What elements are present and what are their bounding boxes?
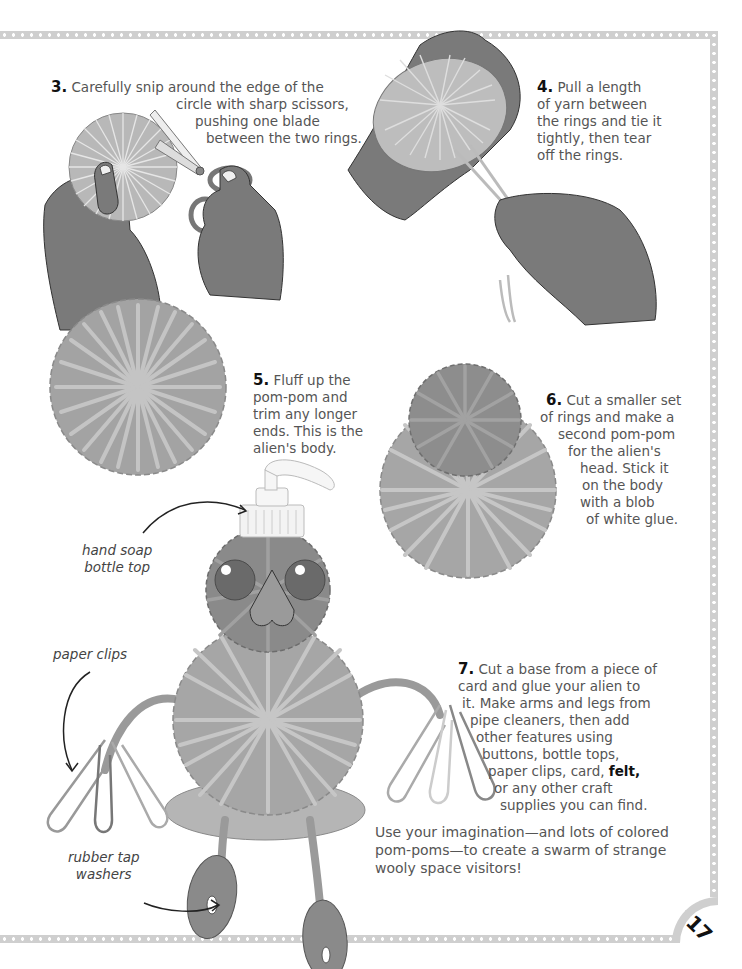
step-number: 6. [546, 391, 562, 409]
step-3-line-4: between the two rings. [51, 130, 362, 147]
step-6-line-7: with a blob [546, 494, 681, 511]
step-7-line-9: supplies you can find. [458, 797, 657, 814]
step-6-line-8: of white glue. [546, 511, 681, 528]
bold-word-felt: felt, [609, 763, 640, 779]
step-4-text: 4. Pull a length of yarn between the rin… [537, 79, 662, 164]
step-4-line-2: of yarn between [537, 96, 662, 113]
closing-line-2: pom-poms—to create a swarm of strange [375, 841, 669, 859]
step-6-line-5: head. Stick it [546, 460, 681, 477]
step-number: 5. [253, 371, 269, 389]
step-3-line-3: pushing one blade [51, 113, 362, 130]
step-5-text: 5. Fluff up the pom-pom and trim any lon… [253, 372, 363, 457]
step-text: Cut a smaller set [566, 392, 681, 408]
label-rubber-tap-washers: rubber tap washers [68, 849, 140, 883]
label-paper-clips: paper clips [53, 646, 127, 663]
step-4-line-5: off the rings. [537, 147, 662, 164]
step-3-line-2: circle with sharp scissors, [51, 96, 362, 113]
step-text: Cut a base from a piece of [478, 661, 657, 677]
step-6-line-6: on the body [546, 477, 681, 494]
label-line: hand soap [82, 542, 152, 559]
soap-bottle-top [240, 460, 334, 537]
step-5-line-5: alien's body. [253, 440, 363, 457]
step-7-line-1: 7. Cut a base from a piece of [458, 661, 657, 678]
step-6-line-4: for the alien's [546, 443, 681, 460]
label-hand-soap-bottle-top: hand soap bottle top [82, 542, 152, 576]
closing-line-3: wooly space visitors! [375, 859, 669, 877]
step-text: paper clips, card, [488, 763, 605, 779]
step-5-line-4: ends. This is the [253, 423, 363, 440]
rubber-tap-washers [181, 851, 350, 969]
label-line: washers [68, 866, 140, 883]
step-7-line-8: or any other craft [458, 780, 657, 797]
step-5-line-3: trim any longer [253, 406, 363, 423]
craft-book-page: 17 [0, 0, 742, 969]
step-7-line-6: buttons, bottle tops, [458, 746, 657, 763]
step-7-line-5: other features using [458, 729, 657, 746]
step-3-text: 3. Carefully snip around the edge of the… [51, 79, 362, 147]
step-6-text: 6. Cut a smaller set of rings and make a… [546, 392, 681, 528]
step-6-line-1: 6. Cut a smaller set [546, 392, 681, 409]
step-number: 3. [51, 78, 67, 96]
step-4-line-3: the rings and tie it [537, 113, 662, 130]
step-6-line-2: of rings and make a [540, 409, 681, 426]
step-4-line-1: 4. Pull a length [537, 79, 662, 96]
step-3-line-1: 3. Carefully snip around the edge of the [51, 79, 362, 96]
step-4-line-4: tightly, then tear [537, 130, 662, 147]
step-7-line-7: paper clips, card, felt, [458, 763, 657, 780]
closing-text: Use your imagination—and lots of colored… [375, 823, 669, 877]
step-7-line-4: pipe cleaners, then add [458, 712, 657, 729]
label-line: bottle top [82, 559, 152, 576]
label-line: rubber tap [68, 849, 140, 866]
closing-line-1: Use your imagination—and lots of colored [375, 823, 669, 841]
step-number: 7. [458, 660, 474, 678]
step-text: Fluff up the [273, 372, 350, 388]
step-7-line-3: it. Make arms and legs from [458, 695, 657, 712]
step-7-line-2: card and glue your alien to [458, 678, 657, 695]
step-5-line-1: 5. Fluff up the [253, 372, 363, 389]
step-7-text: 7. Cut a base from a piece of card and g… [458, 661, 657, 814]
step-number: 4. [537, 78, 553, 96]
step-text: Carefully snip around the edge of the [71, 79, 323, 95]
step-6-line-3: second pom-pom [546, 426, 681, 443]
step-text: Pull a length [557, 79, 641, 95]
step-5-line-2: pom-pom and [253, 389, 363, 406]
